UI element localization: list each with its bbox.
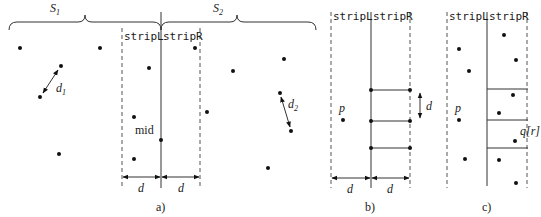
width-label-left-b: d <box>347 182 354 196</box>
strip-left-label: stripL <box>124 30 164 43</box>
brace-s2 <box>161 15 316 30</box>
width-label-left: d <box>138 181 145 195</box>
pair-label-d2: d2 <box>288 97 298 113</box>
strip-right-label-c: stripR <box>489 10 529 23</box>
point-p-c <box>457 118 461 122</box>
strip-right-label-b: stripR <box>373 10 413 23</box>
strip-left-label-b: stripL <box>333 10 373 23</box>
point-q-c <box>513 139 517 143</box>
query-label-c: q[r] <box>520 124 540 138</box>
point-p-label-b: p <box>338 101 345 115</box>
closest-pair-diagram: S1 S2 stripL stripR mid d d d1 d2 <box>0 0 541 217</box>
caption-a: a) <box>156 200 165 214</box>
caption-c: c) <box>482 200 491 214</box>
label-s1: S1 <box>50 1 60 17</box>
strip-right-label: stripR <box>163 30 203 43</box>
point-p-label-c: p <box>454 101 461 115</box>
brace-s1 <box>9 15 161 30</box>
panel-b: stripL stripR d p d d b) <box>331 10 433 214</box>
pair-label-d1: d1 <box>56 81 66 97</box>
grid-rows-c <box>487 89 528 148</box>
label-s2: S2 <box>213 1 223 17</box>
points-a <box>18 46 293 170</box>
width-label-right: d <box>178 181 185 195</box>
panel-c: stripL stripR p q[r] c) <box>447 10 540 214</box>
panel-a: S1 S2 stripL stripR mid d d d1 d2 <box>9 1 316 214</box>
width-label-right-b: d <box>387 182 394 196</box>
strip-left-label-c: stripL <box>449 10 489 23</box>
height-label-b: d <box>426 99 433 113</box>
mid-label: mid <box>135 123 154 137</box>
point-p-b <box>341 118 345 122</box>
grid-rows-b <box>369 88 412 150</box>
caption-b: b) <box>365 200 375 214</box>
